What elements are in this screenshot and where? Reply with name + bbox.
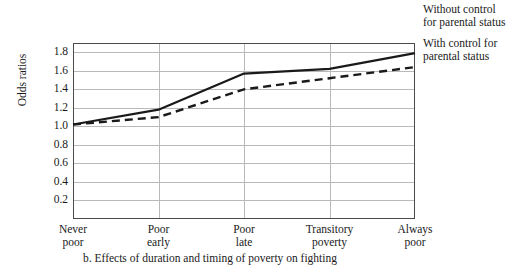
x-axis-tick-label: Transitorypoverty (282, 223, 378, 249)
x-axis-tick-label-line: early (111, 236, 207, 249)
x-axis-tick-label-line: Poor (196, 223, 292, 236)
x-axis-tick-label: Poorearly (111, 223, 207, 249)
y-axis-tick-labels: 0.20.40.60.81.01.21.41.61.8 (38, 43, 68, 219)
y-axis-tick-label: 1.2 (54, 102, 68, 114)
x-axis-tick-label-line: Transitory (282, 223, 378, 236)
y-axis-tick-label: 0.6 (54, 158, 68, 170)
x-axis-tick-label: Neverpoor (25, 223, 121, 249)
figure-caption: b. Effects of duration and timing of pov… (0, 252, 420, 264)
plot-area (73, 43, 415, 219)
x-axis-tick-label: Poorlate (196, 223, 292, 249)
series-layer (73, 43, 415, 219)
y-axis-tick-label: 1.4 (54, 84, 68, 96)
x-axis-tick-label-line: Poor (111, 223, 207, 236)
y-axis-tick-label: 0.8 (54, 139, 68, 151)
x-axis-tick-label-line: Never (25, 223, 121, 236)
legend-entry-without-control: Without control for parental status (423, 3, 511, 29)
x-axis-tick-label: Alwayspoor (367, 223, 463, 249)
y-axis-tick-label: 1.8 (54, 47, 68, 59)
y-axis-tick-label: 0.4 (54, 176, 68, 188)
legend-entry-with-control: With control for parental status (423, 37, 511, 63)
x-axis-tick-label-line: poor (25, 236, 121, 249)
x-axis-tick-label-line: Always (367, 223, 463, 236)
x-axis-tick-label-line: poverty (282, 236, 378, 249)
y-axis-tick-label: 1.6 (54, 65, 68, 77)
y-axis-tick-label: 1.0 (54, 121, 68, 133)
x-axis-tick-label-line: late (196, 236, 292, 249)
chart-legend: Without control for parental status With… (423, 3, 511, 71)
chart-figure: Odds ratios 0.20.40.60.81.01.21.41.61.8 … (0, 0, 511, 274)
x-axis-tick-label-line: poor (367, 236, 463, 249)
y-axis-title: Odds ratios (16, 20, 28, 140)
y-axis-tick-label: 0.2 (54, 195, 68, 207)
